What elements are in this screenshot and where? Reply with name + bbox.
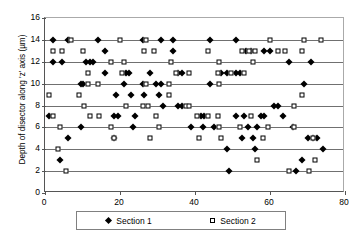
data-point bbox=[301, 37, 306, 42]
y-tickmark-4 bbox=[42, 149, 46, 150]
data-point bbox=[249, 114, 254, 119]
data-point bbox=[130, 124, 137, 131]
data-point bbox=[225, 168, 232, 175]
x-tickmark-20 bbox=[120, 191, 121, 195]
data-point bbox=[233, 36, 240, 43]
data-point bbox=[286, 169, 291, 174]
data-point bbox=[307, 169, 312, 174]
data-point bbox=[169, 36, 176, 43]
data-point bbox=[223, 146, 230, 153]
gridline-y-8 bbox=[45, 106, 343, 107]
data-point bbox=[240, 113, 247, 120]
x-tickmark-40 bbox=[195, 191, 196, 195]
legend-item-section-1[interactable]: Section 1 bbox=[106, 216, 151, 226]
data-point bbox=[219, 136, 224, 141]
data-point bbox=[123, 103, 128, 108]
data-point bbox=[158, 36, 165, 43]
data-point bbox=[101, 69, 108, 76]
data-point bbox=[82, 103, 87, 108]
data-point bbox=[253, 48, 258, 53]
y-tickmark-12 bbox=[42, 62, 46, 63]
data-point bbox=[50, 48, 55, 53]
data-point bbox=[151, 48, 156, 53]
x-tick-label-20: 20 bbox=[104, 197, 134, 207]
data-point bbox=[140, 103, 145, 108]
data-point bbox=[69, 37, 74, 42]
data-point bbox=[299, 48, 304, 53]
filled-diamond-icon bbox=[105, 217, 112, 224]
data-point bbox=[206, 80, 213, 87]
data-point bbox=[250, 135, 257, 142]
data-point bbox=[88, 114, 93, 119]
data-point bbox=[238, 135, 245, 142]
data-point bbox=[46, 92, 51, 97]
data-point bbox=[233, 113, 240, 120]
data-point bbox=[280, 113, 287, 120]
data-point bbox=[253, 124, 260, 131]
gridline-y-14 bbox=[45, 40, 343, 41]
data-point bbox=[299, 92, 304, 97]
data-point bbox=[113, 91, 120, 98]
data-point bbox=[292, 103, 297, 108]
data-point bbox=[308, 58, 315, 65]
data-point bbox=[121, 59, 126, 64]
data-point bbox=[318, 37, 323, 42]
data-point bbox=[215, 70, 220, 75]
data-point bbox=[144, 37, 149, 42]
data-point bbox=[199, 124, 206, 131]
data-point bbox=[268, 37, 273, 42]
data-point bbox=[266, 47, 273, 54]
data-point bbox=[285, 58, 292, 65]
x-tickmark-60 bbox=[270, 191, 271, 195]
data-point bbox=[169, 47, 176, 54]
data-point bbox=[58, 125, 63, 130]
data-point bbox=[58, 58, 65, 65]
data-point bbox=[101, 47, 108, 54]
x-tick-label-80: 80 bbox=[329, 197, 359, 207]
data-point bbox=[115, 113, 122, 120]
data-point bbox=[153, 114, 158, 119]
data-point bbox=[63, 169, 68, 174]
data-point bbox=[217, 81, 222, 86]
data-point bbox=[187, 70, 192, 75]
data-point bbox=[64, 135, 71, 142]
data-point bbox=[275, 48, 280, 53]
x-tick-label-0: 0 bbox=[29, 197, 59, 207]
data-point bbox=[108, 125, 113, 130]
gridline-y-4 bbox=[45, 149, 343, 150]
data-point bbox=[217, 59, 222, 64]
data-point bbox=[146, 103, 151, 108]
data-point bbox=[261, 113, 268, 120]
open-square-icon bbox=[210, 218, 215, 223]
chart-container: Depth of disector along 'z' axis (µm) 16… bbox=[0, 0, 363, 242]
data-point bbox=[59, 48, 64, 53]
data-point bbox=[254, 158, 259, 163]
data-point bbox=[166, 92, 171, 97]
data-point bbox=[56, 157, 63, 164]
y-tickmark-10 bbox=[42, 84, 46, 85]
data-point bbox=[94, 36, 101, 43]
y-tickmark-2 bbox=[42, 171, 46, 172]
data-point bbox=[86, 70, 91, 75]
data-point bbox=[260, 136, 265, 141]
data-point bbox=[80, 48, 85, 53]
x-tick-label-40: 40 bbox=[179, 197, 209, 207]
data-point bbox=[86, 81, 91, 86]
data-point bbox=[141, 91, 148, 98]
data-point bbox=[49, 58, 56, 65]
data-point bbox=[247, 48, 252, 53]
legend-item-section-2[interactable]: Section 2 bbox=[210, 216, 255, 226]
y-tickmark-8 bbox=[42, 106, 46, 107]
data-point bbox=[188, 124, 195, 131]
data-point bbox=[120, 80, 127, 87]
data-point bbox=[49, 36, 56, 43]
data-point bbox=[238, 125, 243, 130]
data-point bbox=[112, 136, 117, 141]
data-point bbox=[142, 48, 147, 53]
data-point bbox=[118, 37, 123, 42]
data-point bbox=[178, 69, 185, 76]
data-point bbox=[156, 91, 163, 98]
data-point bbox=[126, 69, 133, 76]
data-point bbox=[266, 125, 271, 130]
data-point bbox=[239, 48, 244, 53]
